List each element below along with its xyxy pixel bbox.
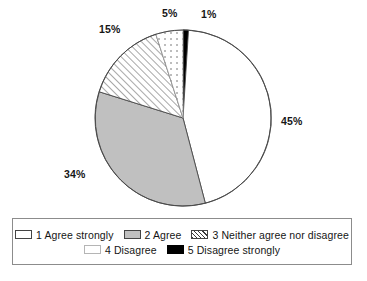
chart-legend: 1 Agree strongly 2 Agree 3 Neither agree… xyxy=(12,218,352,265)
data-label-disagree-strongly: 1% xyxy=(201,8,217,20)
legend-item-disagree-strongly: 5 Disagree strongly xyxy=(167,244,280,256)
legend-swatch-black-icon xyxy=(167,245,184,254)
pie-chart-figure: 5% 1% 15% 45% 34% 1 Agree strongly 2 Agr… xyxy=(0,0,367,281)
legend-label-neither: 3 Neither agree nor disagree xyxy=(212,229,348,241)
legend-swatch-dots-icon xyxy=(84,245,101,254)
legend-swatch-gray-icon xyxy=(124,230,141,239)
legend-row-2: 4 Disagree 5 Disagree strongly xyxy=(79,244,285,256)
legend-item-agree-strongly: 1 Agree strongly xyxy=(15,229,113,241)
pie-svg xyxy=(0,0,367,216)
data-label-agree: 34% xyxy=(64,168,86,180)
legend-item-agree: 2 Agree xyxy=(124,229,182,241)
legend-swatch-white-icon xyxy=(15,230,32,239)
data-label-disagree: 5% xyxy=(162,7,178,19)
data-label-agree-strongly: 45% xyxy=(281,115,303,127)
legend-row-1: 1 Agree strongly 2 Agree 3 Neither agree… xyxy=(10,229,354,241)
legend-item-neither: 3 Neither agree nor disagree xyxy=(191,229,348,241)
legend-item-disagree: 4 Disagree xyxy=(84,244,157,256)
legend-swatch-hatch-icon xyxy=(191,230,208,239)
data-label-neither: 15% xyxy=(99,23,121,35)
pie-plot-area: 5% 1% 15% 45% 34% xyxy=(0,0,367,216)
legend-label-agree: 2 Agree xyxy=(145,229,182,241)
legend-label-disagree: 4 Disagree xyxy=(105,244,157,256)
legend-label-disagree-strongly: 5 Disagree strongly xyxy=(188,244,280,256)
legend-label-agree-strongly: 1 Agree strongly xyxy=(36,229,113,241)
